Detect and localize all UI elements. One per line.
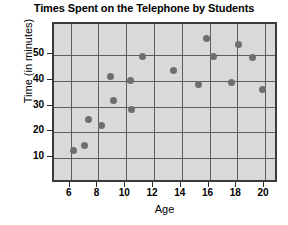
x-tick-label: 18 (223, 187, 247, 198)
data-point (170, 67, 177, 74)
data-point (195, 81, 202, 88)
data-point (110, 97, 117, 104)
data-point (235, 41, 242, 48)
data-point (98, 122, 105, 129)
data-point (210, 53, 217, 60)
x-tick-label: 12 (140, 187, 164, 198)
chart-title: Times Spent on the Telephone by Students (0, 2, 288, 14)
x-tick-label: 16 (196, 187, 220, 198)
data-point (70, 147, 77, 154)
data-point (259, 86, 266, 93)
y-tick-mark (47, 53, 52, 54)
x-axis-label: Age (52, 203, 277, 215)
y-tick-label: 10 (20, 150, 44, 161)
data-point (85, 116, 92, 123)
data-point (203, 35, 210, 42)
data-point (228, 79, 235, 86)
data-point (249, 54, 256, 61)
x-tick-label: 6 (57, 187, 81, 198)
data-point (81, 142, 88, 149)
plot-area (52, 22, 277, 182)
x-tick-label: 20 (251, 187, 275, 198)
data-point (127, 77, 134, 84)
data-point (139, 53, 146, 60)
y-tick-mark (47, 79, 52, 80)
y-tick-mark (47, 156, 52, 157)
data-point (128, 106, 135, 113)
x-tick-label: 10 (112, 187, 136, 198)
y-tick-mark (47, 130, 52, 131)
y-axis-label: Time (in minutes) (22, 0, 34, 141)
scatter-chart: Times Spent on the Telephone by Students… (0, 0, 288, 225)
y-tick-mark (47, 105, 52, 106)
data-point (107, 73, 114, 80)
x-tick-label: 8 (84, 187, 108, 198)
x-tick-label: 14 (168, 187, 192, 198)
data-points-layer (54, 24, 275, 180)
